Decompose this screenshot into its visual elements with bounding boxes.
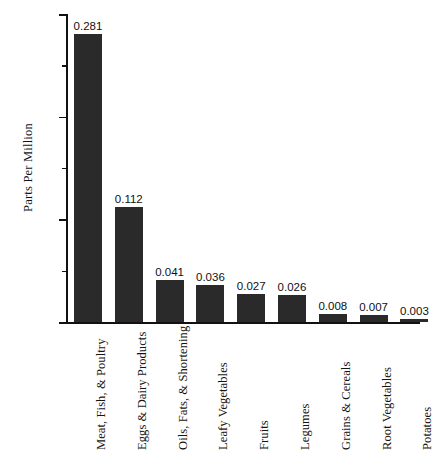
x-category-label: Fruits [257,420,272,450]
bar-chart: Parts Per Million 0.0000.1000.2000.300 0… [0,0,434,461]
bar-value-label: 0.036 [196,271,225,283]
bar-group[interactable]: 0.112 [115,207,143,322]
bar-group[interactable]: 0.281 [74,34,102,322]
bar-value-label: 0.003 [400,305,429,317]
bars-layer: 0.281Meat, Fish, & Poultry0.112Eggs & Da… [0,0,434,461]
bar-rect[interactable] [74,34,102,322]
bar-group[interactable]: 0.026 [278,295,306,322]
x-category-label: Oils, Fats, & Shortening [176,326,191,450]
bar-value-label: 0.026 [278,281,307,293]
bar-group[interactable]: 0.003 [400,319,428,322]
bar-rect[interactable] [319,314,347,322]
x-category-label: Root Vegetables [380,367,395,450]
bar-value-label: 0.041 [155,266,184,278]
bar-value-label: 0.007 [359,301,388,313]
bar-value-label: 0.008 [318,300,347,312]
bar-group[interactable]: 0.008 [319,314,347,322]
bar-rect[interactable] [196,285,224,322]
bar-group[interactable]: 0.027 [237,294,265,322]
bar-value-label: 0.281 [74,20,103,32]
bar-rect[interactable] [360,315,388,322]
bar-group[interactable]: 0.007 [360,315,388,322]
x-category-label: Meat, Fish, & Poultry [94,339,109,450]
bar-rect[interactable] [115,207,143,322]
x-category-label: Grains & Cereals [339,362,354,450]
x-category-label: Potatoes [420,407,434,450]
bar-rect[interactable] [156,280,184,322]
x-category-label: Leafy Vegetables [216,362,231,450]
bar-value-label: 0.112 [115,193,143,205]
bar-rect[interactable] [278,295,306,322]
bar-group[interactable]: 0.041 [156,280,184,322]
x-category-label: Legumes [298,403,313,450]
bar-rect[interactable] [400,319,428,322]
x-category-label: Eggs & Dairy Products [135,332,150,450]
bar-group[interactable]: 0.036 [196,285,224,322]
bar-rect[interactable] [237,294,265,322]
bar-value-label: 0.027 [237,280,266,292]
